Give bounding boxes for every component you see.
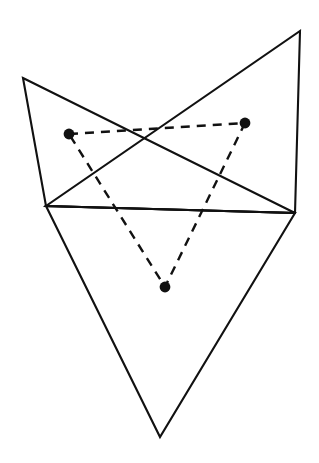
canvas-background [0,0,319,463]
dot-left [64,129,75,140]
geometry-diagram [0,0,319,463]
dot-right [240,118,251,129]
dot-bottom [160,282,171,293]
figure-container [0,0,319,463]
